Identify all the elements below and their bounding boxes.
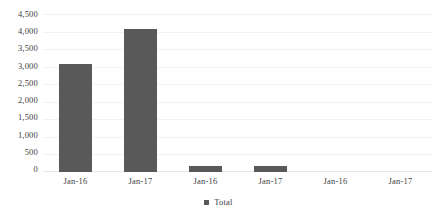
plot-area [43,14,433,172]
bar[interactable] [189,166,222,172]
bar-slot [368,14,433,172]
y-axis-tick: 1,500 [0,113,38,122]
legend-swatch-icon [204,200,209,205]
x-axis-tick: Jan-17 [108,176,173,186]
y-axis-tick: 1,000 [0,131,38,140]
y-axis-tick: 0 [0,165,38,174]
bar-slot [108,14,173,172]
y-axis-tick: 3,500 [0,44,38,53]
bars-layer [43,14,433,172]
y-axis-tick: 4,000 [0,27,38,36]
bar-slot [43,14,108,172]
bar-slot [173,14,238,172]
legend-label[interactable]: Total [214,197,232,207]
bar-chart: 4,500 4,000 3,500 3,000 2,500 2,000 1,50… [0,0,437,223]
bar[interactable] [254,166,287,172]
x-axis: Jan-16 Jan-17 Jan-16 Jan-17 Jan-16 Jan-1… [43,176,433,186]
y-axis-tick: 2,500 [0,79,38,88]
y-axis: 4,500 4,000 3,500 3,000 2,500 2,000 1,50… [0,0,38,223]
y-axis-tick: 4,500 [0,10,38,19]
bar[interactable] [59,64,92,172]
bar[interactable] [124,29,157,172]
chart-legend: Total [0,197,437,207]
x-axis-tick: Jan-17 [368,176,433,186]
y-axis-tick: 2,000 [0,96,38,105]
y-axis-tick: 3,000 [0,62,38,71]
x-axis-tick: Jan-16 [43,176,108,186]
x-axis-tick: Jan-16 [303,176,368,186]
x-axis-tick: Jan-17 [238,176,303,186]
x-axis-tick: Jan-16 [173,176,238,186]
y-axis-tick: 500 [0,148,38,157]
bar-slot [238,14,303,172]
bar-slot [303,14,368,172]
